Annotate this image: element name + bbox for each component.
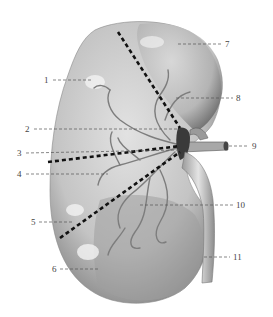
highlight: [140, 36, 164, 48]
highlight: [66, 204, 84, 216]
kidney-diagram: 1 2 3 4 5 6 7 8 9 10 11: [0, 0, 273, 317]
highlight: [77, 244, 99, 260]
label-2: 2: [25, 124, 30, 134]
label-4: 4: [17, 169, 22, 179]
label-6: 6: [52, 264, 57, 274]
renal-artery-end: [224, 142, 229, 151]
label-9: 9: [252, 141, 257, 151]
label-1: 1: [44, 75, 49, 85]
label-3: 3: [17, 148, 22, 158]
label-10: 10: [236, 200, 246, 210]
lower-pole: [94, 195, 204, 300]
label-11: 11: [233, 252, 242, 262]
label-5: 5: [31, 217, 36, 227]
label-7: 7: [225, 39, 230, 49]
label-8: 8: [236, 93, 241, 103]
